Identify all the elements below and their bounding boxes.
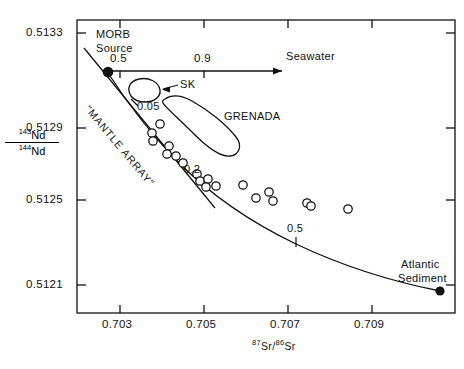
xtick-label-3: 0.709 — [354, 318, 384, 330]
x-axis-mid: Sr/ — [261, 340, 275, 352]
y-axis-num-el: Nd — [31, 129, 45, 141]
sk-field-outline — [129, 79, 160, 102]
atlantic-sediment-marker — [435, 286, 444, 295]
x-axis-sup-87: 87 — [252, 338, 261, 347]
curve-tick-label-05: 0.5 — [287, 222, 303, 234]
data-points — [148, 120, 352, 213]
xtick-label-0: 0.703 — [102, 318, 132, 330]
seawater-arrow — [110, 68, 282, 79]
y-axis-num-sup: 143 — [19, 127, 32, 136]
ytick-label-0: 0.5121 — [26, 278, 63, 290]
atlantic-sediment-label-line2: Sediment — [398, 272, 447, 284]
ytick-label-3: 0.5133 — [26, 26, 63, 38]
y-axis-denominator: 144Nd — [5, 142, 59, 157]
seawater-tick-label-05: 0.5 — [110, 52, 127, 64]
y-axis-den-sup: 144 — [19, 143, 32, 152]
morb-source-marker — [103, 67, 114, 78]
grenada-field-outline — [163, 96, 240, 156]
sk-leader-arrow — [162, 85, 178, 93]
curve-tick-label-02: 0.2 — [184, 163, 200, 175]
grenada-field-label: GRENADA — [224, 110, 281, 122]
seawater-tick-label-09: 0.9 — [194, 52, 211, 64]
ytick-label-1: 0.5125 — [26, 193, 63, 205]
atlantic-sediment-label-line1: Atlantic — [401, 258, 439, 270]
x-axis-end: Sr — [284, 340, 295, 352]
xtick-label-2: 0.707 — [270, 318, 300, 330]
y-axis-label: 143Nd 144Nd — [5, 128, 59, 157]
x-axis-label: 87Sr/86Sr — [252, 338, 296, 352]
y-axis-numerator: 143Nd — [5, 128, 59, 142]
sk-field-label: SK — [180, 78, 195, 90]
xtick-label-1: 0.705 — [186, 318, 216, 330]
morb-source-label-line1: MORB — [96, 28, 130, 40]
seawater-label: Seawater — [286, 50, 335, 62]
curve-tick-label-005: 0.05 — [137, 100, 160, 112]
y-axis-den-el: Nd — [31, 145, 45, 157]
isotope-mixing-diagram — [0, 0, 464, 369]
